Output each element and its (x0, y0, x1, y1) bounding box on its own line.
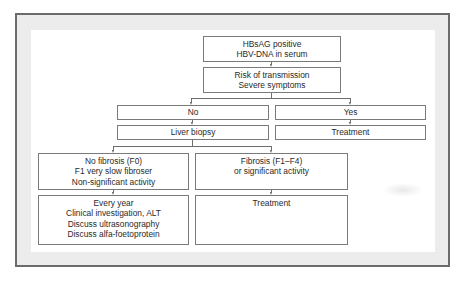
node-text: HBV-DNA in serum (236, 49, 307, 59)
node-text: or significant activity (234, 166, 309, 176)
node-text: HBsAG positive (243, 39, 302, 49)
node-text: Risk of transmission (235, 70, 310, 80)
node-risk-of-transmission: Risk of transmission Severe symptoms (203, 67, 341, 93)
node-text: Non-significant activity (72, 177, 155, 187)
node-text: Every year (93, 198, 133, 208)
node-text: Discuss ultrasonography (68, 219, 160, 229)
node-text: Treatment (253, 198, 291, 208)
node-text: No (188, 107, 199, 117)
node-text: Severe symptoms (238, 80, 305, 90)
connector-line (191, 98, 351, 99)
node-every-year-followup: Every year Clinical investigation, ALT D… (38, 195, 189, 245)
node-liver-biopsy: Liver biopsy (117, 125, 269, 140)
node-no: No (117, 105, 269, 120)
scan-artifact (383, 183, 423, 197)
node-hbsag-positive: HBsAG positive HBV-DNA in serum (203, 36, 341, 62)
connector-line (113, 146, 272, 147)
node-no-fibrosis: No fibrosis (F0) F1 very slow fibroser N… (38, 153, 189, 190)
node-text: Liver biopsy (171, 127, 216, 137)
node-treatment-fibrosis: Treatment (195, 195, 348, 245)
node-text: Fibrosis (F1–F4) (241, 156, 302, 166)
node-text: Clinical investigation, ALT (66, 208, 161, 218)
node-text: Treatment (332, 127, 370, 137)
node-text: No fibrosis (F0) (85, 156, 142, 166)
node-text: F1 very slow fibroser (75, 166, 152, 176)
node-treatment-yes: Treatment (275, 125, 426, 140)
node-text: Discuss alfa-foetoprotein (67, 229, 159, 239)
node-text: Yes (344, 107, 358, 117)
node-fibrosis: Fibrosis (F1–F4) or significant activity (195, 153, 348, 190)
node-yes: Yes (275, 105, 426, 120)
